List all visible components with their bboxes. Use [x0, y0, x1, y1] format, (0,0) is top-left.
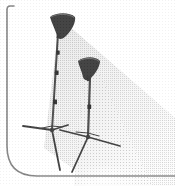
- illustration-figure: Two studio light stands with cone reflec…: [0, 0, 175, 186]
- scan-grain-overlay: [0, 0, 175, 186]
- light-stands-drawing: [0, 0, 175, 186]
